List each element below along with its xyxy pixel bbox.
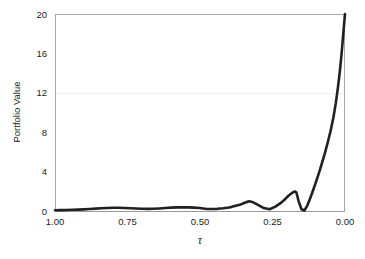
x-tick-label-1.00: 1.00 [46,216,65,227]
y-tick-label-20: 20 [36,9,47,20]
y-tick-label-16: 16 [36,48,47,59]
portfolio-value-line-chart: 048121620 1.000.750.500.250.00 Portfolio… [0,0,365,259]
y-axis-title: Portfolio Value [11,81,22,142]
y-axis-tick-labels: 048121620 [36,9,47,217]
x-tick-label-0.50: 0.50 [191,216,210,227]
plot-area-background [55,14,345,211]
x-tick-label-0.75: 0.75 [118,216,137,227]
y-tick-label-0: 0 [42,206,47,217]
chart-figure: 048121620 1.000.750.500.250.00 Portfolio… [0,0,365,259]
x-axis-tick-labels: 1.000.750.500.250.00 [46,216,355,227]
x-tick-label-0.25: 0.25 [263,216,282,227]
y-tick-label-12: 12 [36,87,47,98]
y-tick-label-4: 4 [42,166,47,177]
x-axis-title: τ [198,233,203,247]
x-tick-label-0.00: 0.00 [336,216,355,227]
y-tick-label-8: 8 [42,127,47,138]
